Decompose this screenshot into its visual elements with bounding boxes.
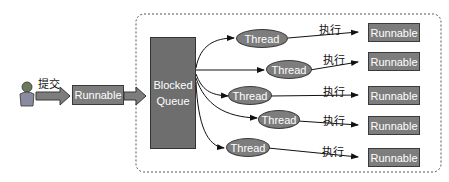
execute-label-2: 执行 xyxy=(323,51,345,67)
execute-label-5: 执行 xyxy=(322,143,344,159)
thread-node-4: Thread xyxy=(258,110,300,129)
runnable-box-1: Runnable xyxy=(368,23,420,42)
submit-label: 提交 xyxy=(38,75,60,91)
thread-node-1: Thread xyxy=(236,29,288,48)
person-icon xyxy=(20,82,34,106)
queue-label-line2: Queue xyxy=(156,93,189,109)
blocked-queue: Blocked Queue xyxy=(150,37,196,149)
enqueue-arrow xyxy=(124,87,146,105)
execute-label-1: 执行 xyxy=(319,21,341,37)
execute-label-4: 执行 xyxy=(323,112,345,128)
runnable-box-2: Runnable xyxy=(368,52,420,71)
input-runnable-box: Runnable xyxy=(72,85,124,105)
runnable-box-5: Runnable xyxy=(368,148,420,167)
thread-node-5: Thread xyxy=(226,138,270,157)
thread-node-3: Thread xyxy=(228,86,272,105)
thread-node-2: Thread xyxy=(266,60,312,79)
thread-pool-diagram: 提交 Runnable Blocked Queue Thread Thread … xyxy=(0,0,449,182)
execute-label-3: 执行 xyxy=(323,83,345,99)
runnable-box-4: Runnable xyxy=(368,116,420,135)
queue-label-line1: Blocked xyxy=(153,77,192,93)
runnable-box-3: Runnable xyxy=(368,86,420,105)
